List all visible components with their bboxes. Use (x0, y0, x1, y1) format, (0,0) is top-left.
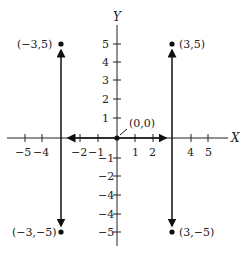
svg-text:5: 5 (102, 38, 109, 51)
svg-text:4: 4 (187, 146, 194, 159)
svg-text:−2: −2 (98, 170, 114, 183)
svg-text:1: 1 (102, 112, 109, 125)
svg-text:2: 2 (149, 146, 156, 159)
point-neg3-5 (58, 41, 63, 46)
label-neg3-neg5: (−3,−5) (12, 226, 57, 239)
svg-text:−5: −5 (98, 226, 114, 239)
svg-text:−4: −4 (33, 146, 49, 159)
svg-text:−2: −2 (71, 146, 87, 159)
point-origin (114, 135, 119, 140)
svg-text:1: 1 (132, 146, 139, 159)
svg-text:−4: −4 (98, 208, 114, 221)
label-3-neg5: (3,−5) (179, 226, 214, 239)
label-neg3-5: (−3,5) (17, 38, 52, 51)
label-origin: (0,0) (129, 117, 155, 130)
svg-text:2: 2 (102, 93, 109, 106)
label-3-5: (3,5) (179, 38, 205, 51)
svg-text:−5: −5 (15, 146, 31, 159)
coordinate-plane: X Y −5 −4 −2 −1 1 2 4 5 5 4 3 2 (0, 0, 247, 255)
point-neg3-neg5 (58, 229, 63, 234)
svg-text:−1: −1 (98, 152, 114, 165)
point-3-neg5 (169, 229, 174, 234)
svg-text:4: 4 (102, 56, 109, 69)
svg-text:−4: −4 (98, 189, 114, 202)
point-3-5 (169, 41, 174, 46)
x-axis-label: X (230, 131, 240, 145)
origin-pointer (120, 129, 127, 135)
y-axis-label: Y (113, 10, 122, 24)
svg-text:5: 5 (205, 146, 212, 159)
svg-text:3: 3 (102, 74, 109, 87)
